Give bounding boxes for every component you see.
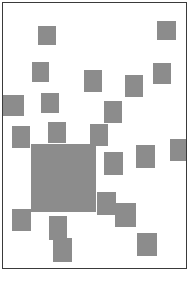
square-15 — [136, 145, 155, 168]
square-13 — [170, 139, 187, 161]
image-canvas — [0, 0, 195, 281]
square-7 — [41, 93, 59, 113]
square-big — [31, 144, 96, 212]
square-5 — [153, 63, 171, 84]
square-20 — [137, 233, 157, 256]
square-12 — [12, 126, 30, 148]
square-14 — [104, 152, 123, 175]
square-19 — [49, 216, 67, 240]
square-2 — [157, 21, 176, 40]
square-18 — [12, 209, 31, 231]
square-9 — [104, 101, 122, 123]
square-6 — [125, 75, 143, 97]
square-16 — [97, 192, 116, 215]
shape-layer — [3, 3, 186, 268]
square-11 — [90, 124, 108, 146]
square-4 — [84, 70, 102, 92]
square-8 — [3, 95, 24, 116]
panel-frame — [2, 2, 187, 269]
square-10 — [48, 122, 66, 143]
square-3 — [32, 62, 49, 82]
square-1 — [38, 26, 56, 45]
square-17 — [115, 203, 136, 227]
square-21 — [53, 238, 72, 262]
